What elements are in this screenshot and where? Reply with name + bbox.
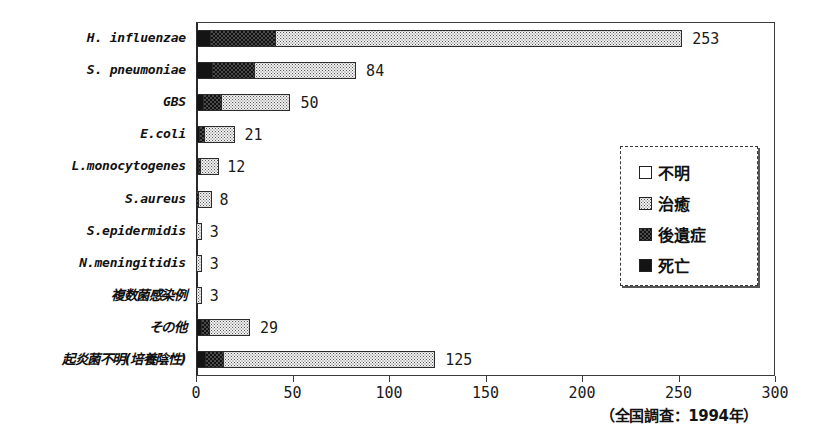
x-tick-mark	[293, 376, 294, 382]
legend-swatch-death-icon	[639, 259, 652, 272]
bar-row	[196, 126, 235, 143]
category-label-row-11: 起炎菌不明(培養陰性)	[0, 352, 192, 366]
bar-segment-death	[196, 62, 213, 79]
bar-row	[196, 223, 202, 240]
category-label-column: H. influenzaeS. pneumoniaeGBSE.coliL.mon…	[0, 22, 192, 376]
category-label-row-9: 複数菌感染例	[0, 288, 192, 302]
bar-value-label: 125	[445, 352, 472, 369]
legend-item-unknown: 不明	[639, 160, 690, 184]
legend-item-cured: 治癒	[639, 191, 690, 215]
bar-row	[196, 351, 435, 368]
x-tick-label: 50	[283, 384, 301, 402]
x-tick-mark	[679, 376, 680, 382]
category-label-e-coli: E.coli	[0, 127, 192, 141]
legend-item-death: 死亡	[639, 253, 690, 277]
bar-segment-cured	[196, 287, 202, 304]
x-tick-label: 150	[472, 384, 499, 402]
category-label-gbs: GBS	[0, 95, 192, 109]
bar-segment-sequelae	[210, 30, 276, 47]
x-tick-label: 0	[191, 384, 200, 402]
x-tick-mark	[196, 376, 197, 382]
bar-value-label: 8	[219, 192, 228, 209]
bar-value-label: 12	[227, 159, 245, 176]
bar-segment-sequelae	[212, 62, 254, 79]
bar-segment-cured	[198, 191, 212, 208]
category-label-row-10: その他	[0, 320, 192, 334]
category-label-h-influenzae: H. influenzae	[0, 31, 192, 45]
chart-caption: （全国調査：1994年）	[600, 404, 758, 425]
bar-segment-sequelae	[203, 94, 222, 111]
category-label-s-epidermidis: S.epidermidis	[0, 224, 192, 238]
x-axis: 050100150200250300	[196, 376, 775, 406]
bar-row	[196, 158, 219, 175]
category-label-s-pneumoniae: S. pneumoniae	[0, 63, 192, 77]
bar-segment-cured	[209, 319, 250, 336]
bar-value-label: 84	[366, 63, 384, 80]
bar-value-label: 50	[301, 95, 319, 112]
legend-swatch-cured-icon	[639, 197, 652, 210]
bar-value-label: 29	[260, 320, 278, 337]
bar-segment-cured	[204, 126, 235, 143]
bar-row	[196, 319, 250, 336]
bar-chart: H. influenzaeS. pneumoniaeGBSE.coliL.mon…	[0, 0, 822, 443]
bar-segment-cured	[275, 30, 682, 47]
bar-segment-cured	[196, 255, 202, 272]
bar-value-label: 3	[210, 256, 219, 273]
x-tick-label: 250	[665, 384, 692, 402]
bar-row	[196, 191, 212, 208]
legend-label: 死亡	[658, 253, 690, 277]
bar-segment-death	[196, 30, 211, 47]
legend: 不明治癒後遺症死亡	[620, 146, 758, 286]
legend-swatch-sequelae-icon	[639, 228, 652, 241]
bar-value-label: 21	[245, 127, 263, 144]
bar-segment-sequelae	[205, 351, 224, 368]
category-label-l-monocytogenes: L.monocytogenes	[0, 159, 192, 173]
bar-segment-cured	[254, 62, 356, 79]
x-tick-mark	[486, 376, 487, 382]
category-label-n-meningitidis: N.meningitidis	[0, 256, 192, 270]
bar-value-label: 3	[210, 288, 219, 305]
bar-row	[196, 94, 290, 111]
bar-segment-cured	[196, 223, 202, 240]
legend-label: 後遺症	[658, 222, 706, 246]
bar-value-label: 3	[210, 224, 219, 241]
bar-segment-cured	[223, 351, 435, 368]
bar-row	[196, 255, 202, 272]
bar-value-label: 253	[692, 31, 719, 48]
bar-segment-cured	[221, 94, 290, 111]
x-tick-mark	[775, 376, 776, 382]
category-label-s-aureus: S.aureus	[0, 192, 192, 206]
legend-label: 治癒	[658, 191, 690, 215]
bar-row	[196, 30, 682, 47]
legend-label: 不明	[658, 160, 690, 184]
legend-item-sequelae: 後遺症	[639, 222, 706, 246]
bar-row	[196, 62, 356, 79]
x-tick-mark	[389, 376, 390, 382]
bar-segment-cured	[200, 158, 219, 175]
legend-swatch-unknown-icon	[639, 166, 652, 179]
bar-row	[196, 287, 202, 304]
x-tick-mark	[582, 376, 583, 382]
x-tick-label: 200	[568, 384, 595, 402]
x-tick-label: 100	[375, 384, 402, 402]
x-tick-label: 300	[761, 384, 788, 402]
